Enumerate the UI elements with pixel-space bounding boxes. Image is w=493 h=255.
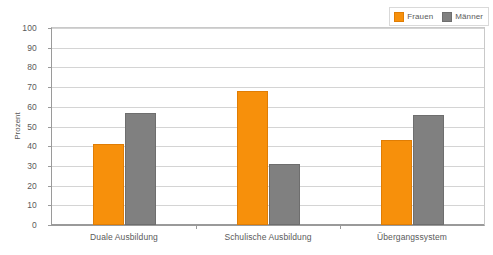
y-tick-label: 0 xyxy=(7,220,37,230)
legend-entry-maenner: Männer xyxy=(442,12,483,22)
bar-chart: Frauen Männer Prozent 010203040506070809… xyxy=(0,0,493,255)
chart-legend: Frauen Männer xyxy=(389,7,489,26)
bar-group xyxy=(196,28,340,225)
bar-maenner xyxy=(125,113,156,225)
x-tick-mark xyxy=(196,225,197,229)
bar-maenner xyxy=(413,115,444,225)
bar-frauen xyxy=(93,144,124,225)
y-tick-label: 20 xyxy=(7,181,37,191)
y-tick-label: 10 xyxy=(7,200,37,210)
x-tick-label: Duale Ausbildung xyxy=(90,232,158,242)
bar-frauen xyxy=(381,140,412,225)
x-tick-label: Schulische Ausbildung xyxy=(224,232,311,242)
bar-maenner xyxy=(269,164,300,225)
y-tick-label: 70 xyxy=(7,82,37,92)
y-tick-label: 40 xyxy=(7,141,37,151)
y-tick-label: 50 xyxy=(7,122,37,132)
plot-inner: 0102030405060708090100 xyxy=(52,28,484,225)
bar-group xyxy=(52,28,196,225)
y-tick-label: 90 xyxy=(7,43,37,53)
y-tick-label: 100 xyxy=(7,23,37,33)
y-tick-mark xyxy=(48,225,52,226)
legend-entry-frauen: Frauen xyxy=(394,12,433,22)
legend-swatch-frauen xyxy=(394,12,404,22)
bar-frauen xyxy=(237,91,268,225)
y-tick-label: 80 xyxy=(7,62,37,72)
x-tick-mark xyxy=(340,225,341,229)
bar-group xyxy=(340,28,484,225)
y-tick-label: 60 xyxy=(7,102,37,112)
legend-label-frauen: Frauen xyxy=(407,13,433,21)
x-tick-label: Übergangssystem xyxy=(377,232,447,242)
legend-label-maenner: Männer xyxy=(455,13,483,21)
plot-area: 0102030405060708090100 xyxy=(51,27,485,226)
legend-swatch-maenner xyxy=(442,12,452,22)
y-tick-label: 30 xyxy=(7,161,37,171)
